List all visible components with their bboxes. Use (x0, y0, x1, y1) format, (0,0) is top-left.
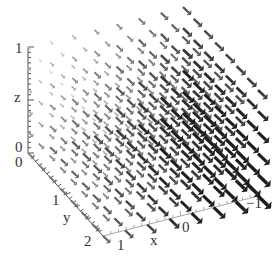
vector-arrows (28, 7, 272, 243)
z-axis-title: z (14, 90, 21, 105)
z-tick-0: 0 (15, 140, 23, 155)
y-tick-2: 2 (84, 234, 92, 249)
z-tick-1: 1 (15, 41, 23, 56)
y-tick-0: 0 (15, 155, 23, 170)
x-tick-minus1: −1 (246, 196, 262, 211)
x-axis-title: x (150, 233, 158, 248)
vector-field-plot (0, 0, 272, 265)
y-axis-title: y (63, 210, 71, 225)
y-tick-1: 1 (52, 193, 60, 208)
x-tick-0: 0 (182, 220, 190, 235)
x-tick-1: 1 (117, 238, 125, 253)
